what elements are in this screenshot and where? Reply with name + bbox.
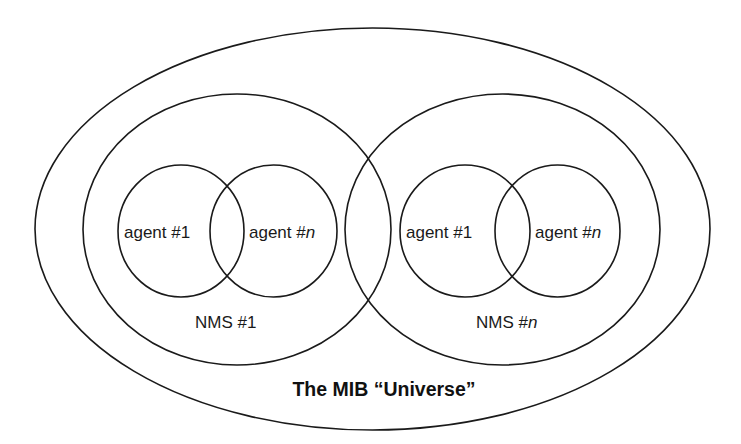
mib-universe-diagram: agent #1 agent #n agent #1 agent #n NMS … xyxy=(0,0,741,444)
nms-n-label: NMS #n xyxy=(476,313,537,332)
nms-1-agent-n-label: agent #n xyxy=(249,223,315,242)
mib-universe-title: The MIB “Universe” xyxy=(292,378,475,400)
nms-n-agent-1-label: agent #1 xyxy=(406,223,472,242)
nms-n-agent-n-label: agent #n xyxy=(535,223,601,242)
nms-1-agent-1-label: agent #1 xyxy=(124,223,190,242)
nms-1-label: NMS #1 xyxy=(195,313,256,332)
